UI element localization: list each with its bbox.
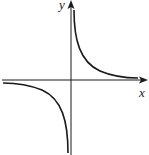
plot-canvas [0,0,149,155]
curve-branch-third-quadrant [3,83,68,153]
x-axis-label: x [139,86,145,99]
y-axis [68,0,75,155]
y-axis-label: y [59,0,65,11]
curve-branch-first-quadrant [74,10,138,78]
